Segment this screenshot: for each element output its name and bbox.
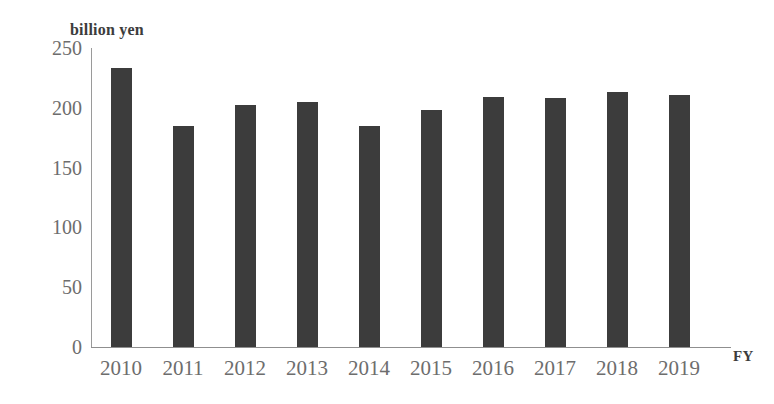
- bar: [297, 102, 318, 347]
- bar: [669, 95, 690, 347]
- bar: [483, 97, 504, 347]
- bar: [607, 92, 628, 347]
- x-axis-tick-label: 2012: [214, 355, 276, 381]
- bar-chart: billion yen 050100150200250 201020112012…: [0, 0, 774, 404]
- x-axis-tick-label: 2015: [400, 355, 462, 381]
- bar: [545, 98, 566, 347]
- x-axis-tick-label: 2010: [90, 355, 152, 381]
- y-axis-tick-label: 0: [14, 337, 82, 357]
- x-axis-tick-label: 2016: [462, 355, 524, 381]
- bars-container: [91, 48, 730, 347]
- bar: [359, 126, 380, 347]
- y-axis-tick-label: 100: [14, 217, 82, 237]
- bar: [173, 126, 194, 347]
- x-axis-tick-label: 2017: [524, 355, 586, 381]
- x-axis-tick-label: 2014: [338, 355, 400, 381]
- y-axis-tick-label: 150: [14, 158, 82, 178]
- x-axis-tick-label: 2019: [648, 355, 710, 381]
- bar: [421, 110, 442, 347]
- y-axis-tick-labels: 050100150200250: [14, 0, 82, 404]
- x-axis-tick-label: 2011: [152, 355, 214, 381]
- y-axis-tick-label: 50: [14, 277, 82, 297]
- bar: [235, 105, 256, 347]
- x-axis-line: [91, 347, 731, 348]
- x-axis-caption: FY: [733, 348, 754, 365]
- y-axis-tick-label: 250: [14, 38, 82, 58]
- y-axis-tick-label: 200: [14, 98, 82, 118]
- x-axis-tick-label: 2018: [586, 355, 648, 381]
- bar: [111, 68, 132, 347]
- x-axis-tick-label: 2013: [276, 355, 338, 381]
- x-axis-tick-labels: 2010201120122013201420152016201720182019: [91, 355, 730, 391]
